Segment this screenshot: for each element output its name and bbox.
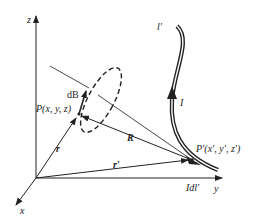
R-vector: [82, 116, 192, 160]
x-axis: [16, 178, 36, 205]
dB-vector: [79, 91, 86, 114]
field-loop-dashed-ellipse: [73, 62, 130, 138]
source-point-P-prime: [190, 158, 194, 162]
y-axis-label: y: [213, 183, 219, 194]
dB-label: dB: [67, 89, 79, 100]
z-axis-label: z: [26, 14, 31, 25]
r-label: r: [56, 143, 60, 154]
field-point-label: P(x, y, z): [35, 103, 72, 115]
wire-label: l′: [157, 21, 163, 32]
biot-savart-diagram: z y x P(x, y, z) P′(x′, y′, z′) dB R r r…: [0, 0, 261, 220]
r-prime-vector: [36, 160, 188, 178]
current-label: I: [179, 97, 184, 108]
current-element-label: Idl′: [185, 182, 200, 193]
r-prime-label: r′: [113, 159, 120, 170]
R-label: R: [126, 132, 134, 143]
x-axis-label: x: [19, 205, 25, 216]
field-point-P: [77, 112, 80, 115]
source-point-label: P′(x′, y′, z′): [195, 143, 241, 155]
